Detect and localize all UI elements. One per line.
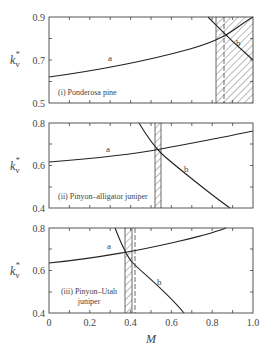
panel-label: (ii) Pinyon–alligator juniper [58, 192, 148, 201]
y-tick-label: 0.6 [33, 265, 46, 276]
curve-a-label: a [107, 241, 111, 251]
panel-label: (i) Ponderosa pine [58, 88, 117, 97]
y-tick-label: 0.8 [33, 118, 46, 129]
curve-a-label: a [108, 53, 112, 63]
y-axis-label: kv* [10, 50, 20, 69]
y-axis-label: kv* [10, 156, 20, 175]
y-tick-label: 0.8 [33, 223, 46, 234]
x-tick-label: 0.6 [165, 317, 178, 328]
panel-ponderosa-pine: 0.9 0.7 0.5 a b (i) Ponderosa pine kv* [10, 12, 253, 109]
x-tick-label: 0.4 [124, 317, 137, 328]
curve-b-label: b [236, 38, 241, 48]
y-tick-label: 0.6 [33, 160, 46, 171]
y-tick-label: 0.9 [33, 12, 46, 23]
x-tick-label: 0.2 [84, 317, 97, 328]
panel-pinyon-utah-juniper: 0.8 0.6 0.4 a b (iii) Pinyon–Utah junipe… [10, 223, 259, 346]
x-axis-label: M [145, 332, 157, 346]
curve-b-label: b [184, 164, 189, 174]
curve-a [49, 228, 226, 263]
panel-label: (iii) Pinyon–Utah [61, 287, 117, 296]
y-tick-label: 0.5 [33, 98, 46, 109]
curve-b-label: b [157, 277, 162, 287]
curve-a-label: a [106, 144, 110, 154]
hatched-region [155, 123, 161, 208]
y-tick-label: 0.4 [33, 308, 46, 319]
panel-label: juniper [77, 297, 101, 306]
y-axis-label: kv* [10, 261, 20, 280]
y-tick-label: 0.4 [33, 203, 46, 214]
curve-a [49, 131, 253, 162]
figure: 0.9 0.7 0.5 a b (i) Ponderosa pine kv* 0… [0, 0, 271, 355]
panel-pinyon-alligator-juniper: 0.8 0.6 0.4 a b (ii) Pinyon–alligator ju… [10, 118, 253, 214]
hatched-region [125, 228, 132, 313]
y-tick-label: 0.7 [33, 55, 46, 66]
x-tick-label: 0.8 [206, 317, 219, 328]
x-tick-label: 0 [47, 317, 52, 328]
x-tick-label: 1.0 [247, 317, 260, 328]
